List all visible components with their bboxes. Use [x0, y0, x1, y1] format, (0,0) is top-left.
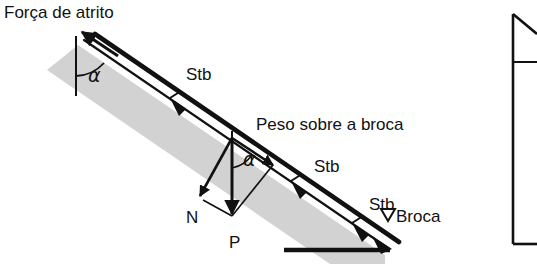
normal-force-label: N [186, 208, 198, 227]
force-diagram-figure: Força de atrito α Stb Peso sobre a broca… [0, 0, 537, 264]
weight-label: P [229, 233, 240, 252]
drill-string [84, 34, 399, 248]
angle-alpha-top-label: α [88, 64, 101, 86]
friction-force-label: Força de atrito [4, 3, 114, 22]
angle-alpha-mid-label: α [243, 148, 256, 170]
adjacent-figure-frame [513, 14, 537, 244]
weight-on-bit-label: Peso sobre a broca [256, 115, 404, 134]
stabilizer-label-3: Stb [369, 195, 395, 214]
drill-bit-label: Broca [396, 207, 441, 226]
force-diagram-canvas: Força de atrito α Stb Peso sobre a broca… [0, 0, 537, 264]
stabilizer-label-1: Stb [186, 65, 212, 84]
stabilizer-label-2: Stb [314, 157, 340, 176]
